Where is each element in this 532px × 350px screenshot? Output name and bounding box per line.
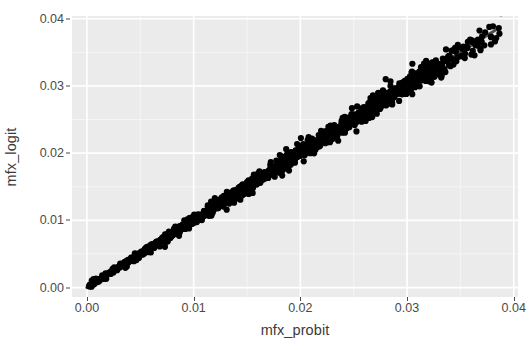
y-axis-tick-mark (66, 220, 70, 221)
data-point (122, 262, 128, 268)
data-point (219, 202, 225, 208)
x-axis-tick-mark (194, 297, 195, 301)
data-point (254, 179, 260, 185)
data-point (188, 221, 194, 227)
data-point (261, 174, 267, 180)
data-point (408, 78, 414, 84)
data-point (207, 209, 213, 215)
data-point-outlier (433, 57, 439, 63)
data-point (464, 45, 470, 51)
data-point (299, 151, 305, 157)
data-point (415, 80, 421, 86)
data-point (482, 29, 488, 35)
data-point (442, 69, 448, 75)
y-axis-tick-mark (66, 85, 70, 86)
data-point (311, 150, 317, 156)
data-point (496, 31, 502, 37)
y-axis-tick-mark (66, 153, 70, 154)
data-point-outlier (428, 79, 434, 85)
data-point (334, 126, 340, 132)
data-point (129, 257, 135, 263)
data-point (446, 62, 452, 68)
x-axis-tick-label: 0.00 (57, 301, 117, 315)
data-point (279, 161, 285, 167)
x-axis-tick-label: 0.01 (164, 301, 224, 315)
x-axis-tick-label: 0.03 (377, 301, 437, 315)
data-point (268, 159, 274, 165)
x-axis-tick-mark (514, 297, 515, 301)
data-point (403, 85, 409, 91)
data-point (99, 275, 105, 281)
data-point (340, 128, 346, 134)
data-point (353, 128, 359, 134)
data-point (390, 88, 396, 94)
x-axis-tick-label: 0.02 (270, 301, 330, 315)
data-point (409, 91, 415, 97)
data-point-outlier (452, 48, 458, 54)
data-point (385, 93, 391, 99)
data-point (443, 46, 449, 52)
y-axis-tick-label: 0.04 (20, 12, 64, 26)
data-point-outlier (363, 115, 369, 121)
y-axis-title-label: mfx_logit (3, 127, 19, 186)
data-point-outlier (409, 61, 415, 67)
data-point (136, 251, 142, 257)
data-point (374, 102, 380, 108)
data-point (289, 156, 295, 162)
data-point (362, 104, 368, 110)
data-point (154, 239, 160, 245)
data-point (306, 143, 312, 149)
data-point (244, 184, 250, 190)
y-axis-tick-mark (66, 287, 70, 288)
y-axis-tick-labels: 0.000.010.020.030.04 (18, 0, 64, 350)
data-point (453, 58, 459, 64)
y-axis-tick-label: 0.03 (20, 79, 64, 93)
data-point-outlier (459, 53, 465, 59)
x-axis-title-label: mfx_probit (261, 322, 330, 338)
data-point (190, 215, 196, 221)
x-axis-tick-mark (300, 297, 301, 301)
plot-panel (72, 16, 518, 297)
data-point-max (496, 25, 502, 31)
data-point (161, 237, 167, 243)
data-point (385, 98, 391, 104)
data-point (321, 134, 327, 140)
y-axis-tick-label: 0.00 (20, 281, 64, 295)
y-axis-tick-label: 0.02 (20, 146, 64, 160)
data-point (264, 169, 270, 175)
data-point (369, 106, 375, 112)
data-point (288, 149, 294, 155)
data-point-outlier (383, 76, 389, 82)
data-point (201, 209, 207, 215)
data-point (476, 28, 482, 34)
data-point (372, 95, 378, 101)
data-point (271, 165, 277, 171)
data-point (235, 189, 241, 195)
data-point (396, 98, 402, 104)
y-axis-tick-mark (66, 18, 70, 19)
data-point (301, 158, 307, 164)
data-point (341, 121, 347, 127)
x-axis-tick-mark (407, 297, 408, 301)
y-axis-tick-label: 0.01 (20, 213, 64, 227)
x-axis-title: mfx_probit (72, 322, 518, 338)
data-point-origin (86, 283, 92, 289)
data-point (486, 24, 492, 30)
data-point (178, 223, 184, 229)
data-point (147, 243, 153, 249)
data-point (197, 217, 203, 223)
plot-canvas (72, 16, 518, 297)
data-point (109, 269, 115, 275)
data-point (492, 38, 498, 44)
data-point (117, 264, 123, 270)
x-axis-tick-mark (87, 297, 88, 301)
data-point-outlier (421, 66, 427, 72)
data-point-outlier (403, 91, 409, 97)
data-point (477, 47, 483, 53)
data-point (213, 202, 219, 208)
data-point-outlier (476, 39, 482, 45)
data-point (470, 48, 476, 54)
data-point (353, 115, 359, 121)
data-point (421, 60, 427, 66)
data-point (298, 135, 304, 141)
